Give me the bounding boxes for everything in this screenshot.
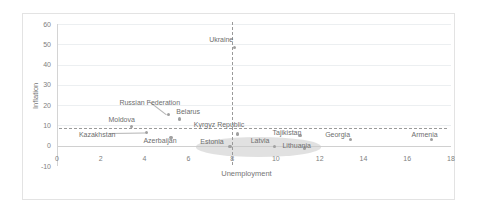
data-point-label: Moldova: [108, 116, 134, 124]
y-axis-tick-label: 40: [29, 61, 51, 68]
x-axis-tick-label: 6: [178, 155, 198, 162]
y-axis-line: [57, 24, 58, 166]
data-point[interactable]: [178, 117, 181, 120]
y-axis-tick-label: 60: [29, 21, 51, 28]
x-axis-tick-label: 18: [441, 155, 461, 162]
x-axis-tick-label: 12: [310, 155, 330, 162]
data-point-label: Tajikistan: [273, 129, 302, 137]
data-point-label: Lithuania: [282, 142, 310, 150]
x-axis-tick-label: 2: [91, 155, 111, 162]
data-point-label: Azerbaijan: [143, 137, 176, 145]
x-axis-tick-label: 14: [353, 155, 373, 162]
y-axis-title: Inflation: [31, 83, 40, 109]
y-gridline: [57, 85, 451, 86]
data-point-label: Estonia: [200, 138, 223, 146]
chart-container: 6050403020100-10024681012141618Inflation…: [22, 13, 455, 200]
y-gridline: [57, 125, 451, 126]
data-point[interactable]: [233, 46, 236, 49]
y-axis-tick-label: 50: [29, 41, 51, 48]
x-axis-tick-label: 16: [397, 155, 417, 162]
x-axis-tick-label: 4: [135, 155, 155, 162]
data-point-label: Latvia: [251, 137, 270, 145]
data-point-label: Kazakhstan: [79, 131, 116, 139]
data-point-label: Russian Federation: [119, 99, 180, 107]
data-point-label: Georgia: [325, 131, 350, 139]
y-axis-tick-label: 0: [29, 142, 51, 149]
x-axis-title: Unemployment: [221, 169, 271, 178]
data-point[interactable]: [130, 125, 133, 128]
y-gridline: [57, 24, 451, 25]
y-gridline: [57, 105, 451, 106]
y-gridline: [57, 44, 451, 45]
data-point[interactable]: [145, 131, 148, 134]
data-point-label: Ukraine: [209, 36, 233, 44]
x-axis-tick-label: 0: [47, 155, 67, 162]
data-point-label: Kyrgyz Republic: [194, 121, 245, 129]
y-axis-tick-label: -10: [29, 163, 51, 170]
data-point[interactable]: [236, 132, 239, 135]
y-gridline: [57, 65, 451, 66]
data-point-label: Armenia: [412, 131, 438, 139]
horizontal-reference-line: [59, 128, 447, 129]
scatter-plot-area: 6050403020100-10024681012141618Inflation…: [23, 14, 456, 201]
y-axis-tick-label: 10: [29, 122, 51, 129]
data-point-label: Belarus: [176, 108, 200, 116]
data-point[interactable]: [167, 113, 170, 116]
